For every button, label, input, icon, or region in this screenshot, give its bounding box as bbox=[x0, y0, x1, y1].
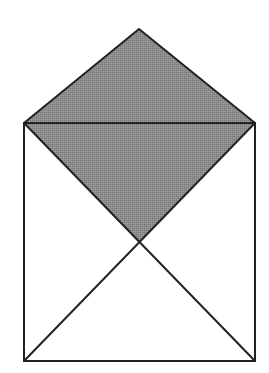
shaded-rhombus bbox=[24, 29, 255, 243]
envelope-diagram bbox=[0, 0, 269, 373]
